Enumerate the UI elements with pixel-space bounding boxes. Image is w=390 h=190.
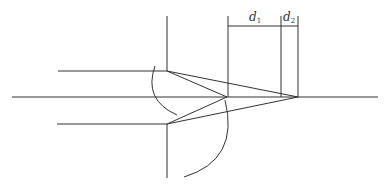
optical-diagram: d1 d2	[0, 0, 390, 190]
lower-arc	[184, 100, 228, 177]
ray-lower-to-focus2	[167, 97, 298, 124]
ray-lower-to-focus1	[167, 97, 227, 124]
label-d2: d2	[283, 10, 295, 25]
ray-upper-to-focus1	[167, 71, 227, 97]
ray-upper-to-focus2	[167, 71, 298, 97]
label-d1: d1	[249, 10, 261, 25]
